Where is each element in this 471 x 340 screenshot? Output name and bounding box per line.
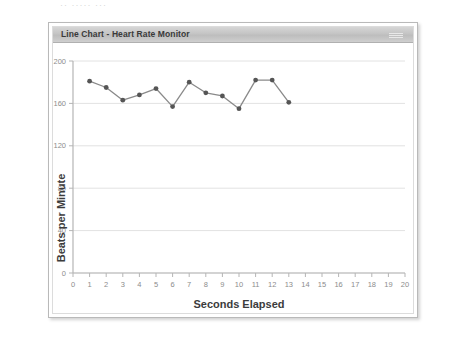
data-point[interactable] xyxy=(220,94,225,99)
x-tick-label: 7 xyxy=(187,280,191,289)
data-point[interactable] xyxy=(286,100,291,105)
x-tick-label: 20 xyxy=(401,280,409,289)
data-point[interactable] xyxy=(187,80,192,85)
x-tick-label: 9 xyxy=(220,280,224,289)
y-axis-title: Beats per Minute xyxy=(55,174,67,263)
x-tick-label: 3 xyxy=(121,280,125,289)
x-tick-label: 1 xyxy=(88,280,92,289)
y-tick-label: 200 xyxy=(53,57,66,66)
x-axis-title: Seconds Elapsed xyxy=(193,298,284,310)
x-tick-label: 13 xyxy=(285,280,293,289)
x-tick-label: 19 xyxy=(384,280,392,289)
data-point[interactable] xyxy=(270,78,275,83)
chart-panel: Line Chart - Heart Rate Monitor 04080120… xyxy=(48,22,418,318)
y-tick-label: 0 xyxy=(62,269,66,278)
data-point[interactable] xyxy=(137,93,142,98)
x-tick-label: 12 xyxy=(268,280,276,289)
chart-titlebar[interactable]: Line Chart - Heart Rate Monitor xyxy=(53,27,413,43)
x-tick-label: 5 xyxy=(154,280,158,289)
drag-grip-icon[interactable] xyxy=(389,33,403,38)
x-tick-label: 2 xyxy=(104,280,108,289)
data-point[interactable] xyxy=(237,106,242,111)
data-point[interactable] xyxy=(170,104,175,109)
data-point[interactable] xyxy=(87,79,92,84)
x-axis-ticks-group: 01234567891011121314151617181920 xyxy=(71,273,409,289)
line-chart-svg: 04080120160200 0123456789101112131415161… xyxy=(53,43,415,315)
gridlines-group xyxy=(73,61,405,273)
x-tick-label: 16 xyxy=(334,280,342,289)
x-tick-label: 18 xyxy=(368,280,376,289)
x-tick-label: 14 xyxy=(301,280,309,289)
data-point[interactable] xyxy=(253,78,258,83)
x-tick-label: 0 xyxy=(71,280,75,289)
x-tick-label: 10 xyxy=(235,280,243,289)
top-clipped-artifact: ·· ····· ··· xyxy=(60,0,220,12)
y-tick-label: 120 xyxy=(53,141,66,150)
y-tick-label: 160 xyxy=(53,99,66,108)
x-tick-label: 15 xyxy=(318,280,326,289)
x-tick-label: 17 xyxy=(351,280,359,289)
x-tick-label: 11 xyxy=(252,280,260,289)
chart-title: Line Chart - Heart Rate Monitor xyxy=(61,29,190,39)
x-tick-label: 6 xyxy=(171,280,175,289)
plot-area: 04080120160200 0123456789101112131415161… xyxy=(53,43,413,313)
data-point[interactable] xyxy=(104,85,109,90)
data-point[interactable] xyxy=(203,90,208,95)
data-point[interactable] xyxy=(154,86,159,91)
data-point[interactable] xyxy=(120,98,125,103)
heart-rate-points-group xyxy=(87,78,291,111)
x-tick-label: 8 xyxy=(204,280,208,289)
chart-panel-inner: Line Chart - Heart Rate Monitor 04080120… xyxy=(52,26,414,314)
x-tick-label: 4 xyxy=(137,280,141,289)
